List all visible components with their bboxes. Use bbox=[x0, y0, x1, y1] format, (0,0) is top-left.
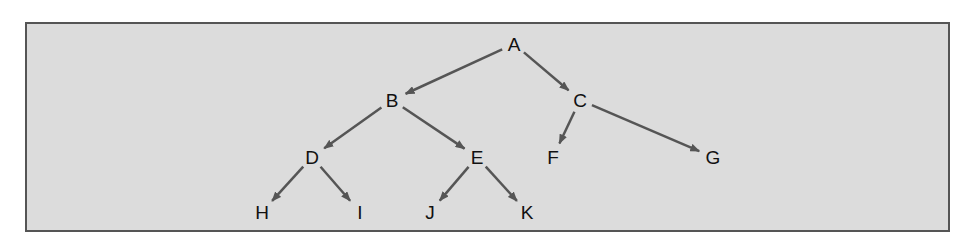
node-I: I bbox=[357, 202, 362, 223]
node-K: K bbox=[521, 202, 534, 223]
node-G: G bbox=[706, 147, 721, 168]
node-D: D bbox=[305, 147, 319, 168]
node-A: A bbox=[508, 34, 521, 55]
node-J: J bbox=[425, 202, 435, 223]
node-C: C bbox=[573, 90, 587, 111]
edge-E-K bbox=[486, 167, 517, 201]
edge-E-J bbox=[440, 167, 469, 201]
edge-D-H bbox=[272, 167, 303, 201]
edge-A-C bbox=[524, 52, 569, 90]
edge-D-I bbox=[321, 167, 351, 201]
edge-C-G bbox=[592, 105, 699, 151]
edge-B-E bbox=[403, 107, 465, 148]
tree-diagram: ABCDEFGHIJK bbox=[0, 0, 970, 242]
edge-C-F bbox=[559, 112, 574, 144]
node-F: F bbox=[547, 147, 559, 168]
node-B: B bbox=[386, 90, 399, 111]
node-E: E bbox=[471, 147, 484, 168]
edge-A-B bbox=[406, 49, 503, 93]
tree-nodes: ABCDEFGHIJK bbox=[255, 34, 720, 223]
node-H: H bbox=[255, 202, 269, 223]
tree-edges bbox=[272, 49, 699, 200]
edge-B-D bbox=[324, 108, 381, 149]
